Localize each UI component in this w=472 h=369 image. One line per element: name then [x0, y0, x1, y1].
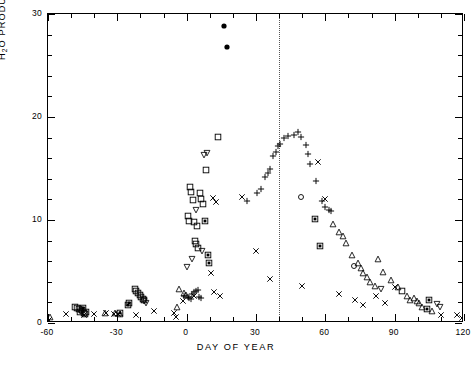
- y-minor-tick: [48, 302, 52, 303]
- x-minor-tick-top: [302, 14, 303, 18]
- x-tick-label: -30: [96, 327, 136, 337]
- x-major-tick-top: [48, 14, 49, 21]
- x-minor-tick-top: [164, 14, 165, 18]
- data-point-triangle: [395, 283, 402, 290]
- perihelion-dotted-line: [279, 14, 280, 321]
- data-point-triangle: [348, 252, 355, 259]
- data-point-open-diamond-nabla: [436, 303, 443, 310]
- x-minor-tick-top: [418, 14, 419, 18]
- y-minor-tick: [48, 261, 52, 262]
- y-axis-title-text: H2O PRODUCTION RATE (1029 s-1 ): [0, 0, 7, 60]
- data-point-plus: [194, 287, 201, 294]
- y-major-tick-right: [455, 220, 462, 221]
- x-major-tick: [117, 314, 118, 321]
- data-point-open-square: [188, 189, 195, 196]
- y-minor-tick: [48, 282, 52, 283]
- y-major-tick-right: [455, 117, 462, 118]
- data-point-cross-x: [458, 314, 462, 321]
- data-point-open-square: [214, 133, 221, 140]
- data-point-open-circle: [351, 263, 358, 270]
- data-point-open-square: [185, 218, 192, 225]
- x-minor-tick: [418, 317, 419, 321]
- y-minor-tick: [48, 76, 52, 77]
- x-minor-tick-top: [140, 14, 141, 18]
- data-point-open-square: [189, 197, 196, 204]
- data-point-triangle: [330, 221, 337, 228]
- data-point-open-diamond-nabla: [188, 256, 195, 263]
- data-point-plus: [328, 207, 335, 214]
- y-minor-tick-right: [458, 282, 462, 283]
- y-minor-tick-right: [458, 199, 462, 200]
- x-minor-tick-top: [94, 14, 95, 18]
- y-major-tick-right: [455, 14, 462, 15]
- y-tick-label: 10: [16, 214, 42, 224]
- x-major-tick-top: [395, 14, 396, 21]
- y-minor-tick-right: [458, 179, 462, 180]
- data-point-plus: [302, 141, 309, 148]
- x-minor-tick: [210, 317, 211, 321]
- y-minor-tick-right: [458, 55, 462, 56]
- data-point-triangle: [375, 256, 382, 263]
- plot-area: [47, 13, 463, 322]
- data-point-open-diamond-nabla: [184, 264, 191, 271]
- x-major-tick: [187, 314, 188, 321]
- y-minor-tick: [48, 199, 52, 200]
- x-major-tick: [395, 314, 396, 321]
- x-minor-tick-top: [71, 14, 72, 18]
- data-point-plus: [243, 198, 250, 205]
- y-minor-tick: [48, 35, 52, 36]
- y-minor-tick-right: [458, 96, 462, 97]
- data-point-open-square: [194, 223, 201, 230]
- data-point-filled-circle: [220, 23, 227, 30]
- data-canvas: [48, 14, 462, 321]
- data-point-cross-x: [266, 275, 273, 282]
- x-minor-tick-top: [441, 14, 442, 18]
- data-point-cross-x: [63, 310, 70, 317]
- data-point-open-circle: [78, 307, 85, 314]
- x-major-tick-top: [187, 14, 188, 21]
- data-point-cross-x: [151, 307, 158, 314]
- x-minor-tick: [348, 317, 349, 321]
- x-minor-tick: [302, 317, 303, 321]
- y-major-tick: [48, 220, 55, 221]
- data-point-cross-x: [299, 282, 306, 289]
- data-point-cross-x: [213, 199, 220, 206]
- y-tick-label: 20: [16, 111, 42, 121]
- data-point-cross-x: [336, 291, 343, 298]
- data-point-plus: [305, 151, 312, 158]
- data-point-open-diamond-nabla: [199, 247, 206, 254]
- x-tick-label: 90: [374, 327, 414, 337]
- y-major-tick: [48, 117, 55, 118]
- figure-caption: [20, 361, 460, 369]
- data-point-cross-x: [207, 269, 214, 276]
- x-minor-tick: [71, 317, 72, 321]
- data-point-triangle: [101, 310, 108, 317]
- x-major-tick-top: [325, 14, 326, 21]
- x-minor-tick: [233, 317, 234, 321]
- data-point-triangle: [419, 303, 426, 310]
- x-minor-tick-top: [279, 14, 280, 18]
- data-point-plus: [313, 177, 320, 184]
- data-point-open-diamond-nabla: [192, 206, 199, 213]
- y-minor-tick: [48, 241, 52, 242]
- y-tick-label: 30: [16, 8, 42, 18]
- data-point-cross-x: [315, 159, 322, 166]
- data-point-filled-square: [126, 300, 133, 307]
- data-point-triangle: [388, 276, 395, 283]
- figure-h2o-production-rate: H2O PRODUCTION RATE (1029 s-1 ) DAY OF Y…: [0, 0, 472, 369]
- y-axis-title: H2O PRODUCTION RATE (1029 s-1 ): [0, 0, 8, 60]
- y-major-tick-right: [455, 323, 462, 324]
- x-minor-tick: [94, 317, 95, 321]
- x-major-tick-top: [117, 14, 118, 21]
- y-minor-tick: [48, 55, 52, 56]
- data-point-plus: [277, 140, 284, 147]
- data-point-cross-x: [360, 302, 367, 309]
- data-point-cross-x: [253, 247, 260, 254]
- y-tick-label: 0: [16, 317, 42, 327]
- data-point-filled-square: [206, 260, 213, 267]
- y-minor-tick: [48, 96, 52, 97]
- data-point-open-diamond-nabla: [142, 300, 149, 307]
- data-point-cross-x: [173, 313, 180, 320]
- x-axis-title: DAY OF YEAR: [0, 342, 472, 352]
- x-minor-tick-top: [372, 14, 373, 18]
